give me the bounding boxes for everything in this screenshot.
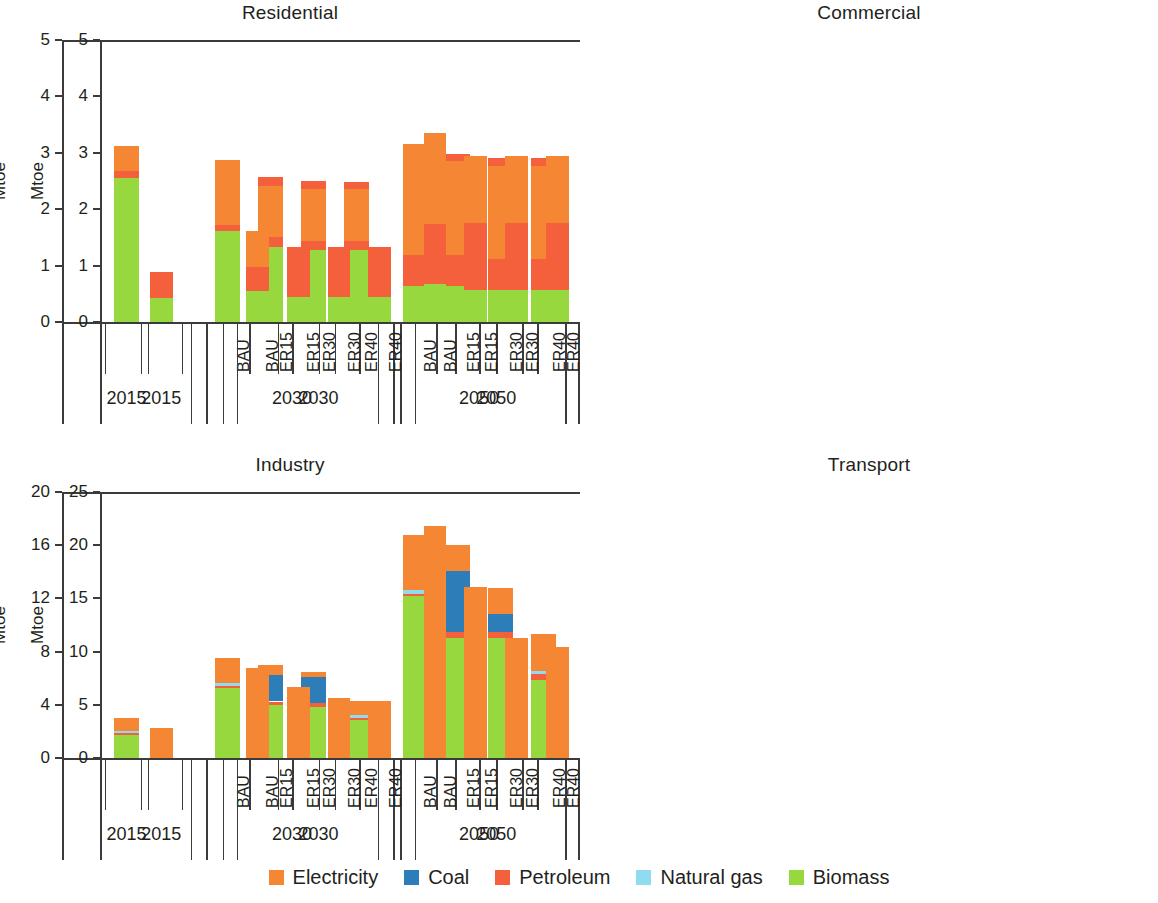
- legend-label: Natural gas: [660, 866, 762, 889]
- x-axis-group-tick: [223, 810, 225, 860]
- bar-2030-er40: [368, 492, 391, 758]
- bar-segment-petroleum: [287, 247, 310, 297]
- bar-segment-petroleum: [546, 223, 569, 290]
- y-axis-tick-label: 10: [52, 642, 88, 662]
- bar-2050-er40: [546, 40, 569, 322]
- bar-segment-petroleum: [246, 267, 269, 291]
- y-axis-tick-label: 0: [52, 748, 88, 768]
- x-axis-year-label: 2030: [237, 824, 400, 845]
- y-axis-tick: [93, 95, 100, 97]
- bar-segment-electricity: [546, 156, 569, 224]
- x-axis-scenario-label: ER30: [346, 768, 364, 808]
- legend-item-natural-gas: Natural gas: [636, 866, 762, 889]
- y-axis-tick: [93, 152, 100, 154]
- y-axis-tick: [93, 491, 100, 493]
- y-axis-tick-label: 5: [52, 695, 88, 715]
- bar-2030-er30: [328, 492, 351, 758]
- x-axis-inner-tick: [182, 322, 184, 374]
- bar-segment-electricity: [328, 698, 351, 758]
- x-axis-scenario-label: ER15: [305, 332, 323, 372]
- bar-segment-electricity: [424, 133, 447, 224]
- y-axis-label: Mtoe: [28, 595, 48, 655]
- x-axis-inner-tick: [148, 322, 150, 374]
- x-axis-scenario-label: ER30: [524, 768, 542, 808]
- y-axis-tick-label: 0: [14, 312, 50, 332]
- y-axis-tick-label: 20: [52, 535, 88, 555]
- y-axis-tick-label: 4: [14, 86, 50, 106]
- y-axis-tick-label: 20: [14, 482, 50, 502]
- bar-2050-er40: [546, 492, 569, 758]
- x-axis-inner-tick: [206, 758, 208, 810]
- x-axis-scenario-label: ER40: [363, 768, 381, 808]
- bar-segment-biomass: [505, 290, 528, 322]
- y-axis-label: Mtoe: [0, 595, 10, 655]
- y-axis-tick: [93, 208, 100, 210]
- x-axis-inner-tick: [415, 322, 417, 374]
- x-axis-group-tick: [578, 810, 580, 860]
- y-axis-tick: [93, 39, 100, 41]
- bar-segment-biomass: [424, 284, 447, 322]
- bar-segment-electricity: [246, 668, 269, 758]
- bar-segment-electricity: [246, 231, 269, 268]
- bar-segment-petroleum: [424, 224, 447, 284]
- y-axis-tick: [93, 597, 100, 599]
- y-axis-tick: [93, 544, 100, 546]
- y-axis-tick-label: 16: [14, 535, 50, 555]
- panel-title: Transport: [580, 454, 1158, 476]
- x-axis-year-label: 2050: [415, 824, 578, 845]
- legend-item-coal: Coal: [404, 866, 469, 889]
- x-axis-scenario-label: ER30: [321, 332, 339, 372]
- x-axis-scenario-label: ER40: [387, 768, 405, 808]
- bar-2050-er15: [464, 492, 487, 758]
- y-axis-tick-label: 0: [14, 748, 50, 768]
- bar-2030-er30: [328, 40, 351, 322]
- y-axis-tick-label: 15: [52, 588, 88, 608]
- bar-2030-er15: [287, 492, 310, 758]
- bar-segment-biomass: [328, 297, 351, 322]
- bar-segment-electricity: [505, 156, 528, 224]
- bar-2015: [150, 40, 173, 322]
- y-axis-tick-label: 4: [52, 86, 88, 106]
- x-axis-scenario-label: BAU: [264, 339, 282, 372]
- bar-segment-petroleum: [505, 223, 528, 290]
- bar-segment-biomass: [464, 290, 487, 322]
- bar-segment-petroleum: [328, 247, 351, 297]
- x-axis-inner-tick: [237, 758, 239, 810]
- x-axis-scenario-label: ER15: [483, 768, 501, 808]
- x-axis-scenario-label: BAU: [442, 775, 460, 808]
- x-axis-inner-tick: [100, 758, 102, 810]
- y-axis-tick-label: 3: [52, 143, 88, 163]
- bar-segment-electricity: [464, 587, 487, 758]
- bar-segment-petroleum: [150, 272, 173, 299]
- bar-segment-biomass: [287, 297, 310, 322]
- legend-swatch-icon: [269, 870, 284, 885]
- bar-2015: [150, 492, 173, 758]
- x-axis-scenario-label: ER30: [508, 332, 526, 372]
- bar-2050-er30: [505, 492, 528, 758]
- x-axis-inner-tick: [182, 758, 184, 810]
- x-axis-year-label: 2050: [415, 388, 578, 409]
- y-axis-tick-label: 2: [52, 199, 88, 219]
- legend-swatch-icon: [789, 870, 804, 885]
- x-axis-scenario-label: ER15: [465, 768, 483, 808]
- x-axis-inner-tick: [141, 322, 143, 374]
- x-axis-scenario-label: BAU: [422, 339, 440, 372]
- y-axis-tick-label: 1: [14, 256, 50, 276]
- x-axis-scenario-label: ER40: [565, 332, 583, 372]
- x-axis-inner-tick: [191, 322, 193, 374]
- x-axis-scenario-label: ER30: [524, 332, 542, 372]
- y-axis-tick: [93, 704, 100, 706]
- x-axis-scenario-label: ER40: [387, 332, 405, 372]
- panel-grid: ResidentialMtoe0123452015BAUER15ER30ER40…: [0, 0, 1158, 860]
- bar-segment-biomass: [368, 297, 391, 322]
- x-axis-group-tick: [400, 810, 402, 860]
- legend-swatch-icon: [404, 870, 419, 885]
- chart-panel-transport: TransportMtoe05101520252015BAUER15ER30ER…: [580, 452, 1158, 872]
- bar-segment-electricity: [150, 728, 173, 758]
- y-axis-tick-label: 5: [52, 30, 88, 50]
- x-axis-inner-tick: [105, 322, 107, 374]
- panel-title: Industry: [0, 454, 580, 476]
- bar-segment-electricity: [505, 638, 528, 758]
- x-axis-year-label: 2030: [237, 388, 400, 409]
- bar-2030-er40: [368, 40, 391, 322]
